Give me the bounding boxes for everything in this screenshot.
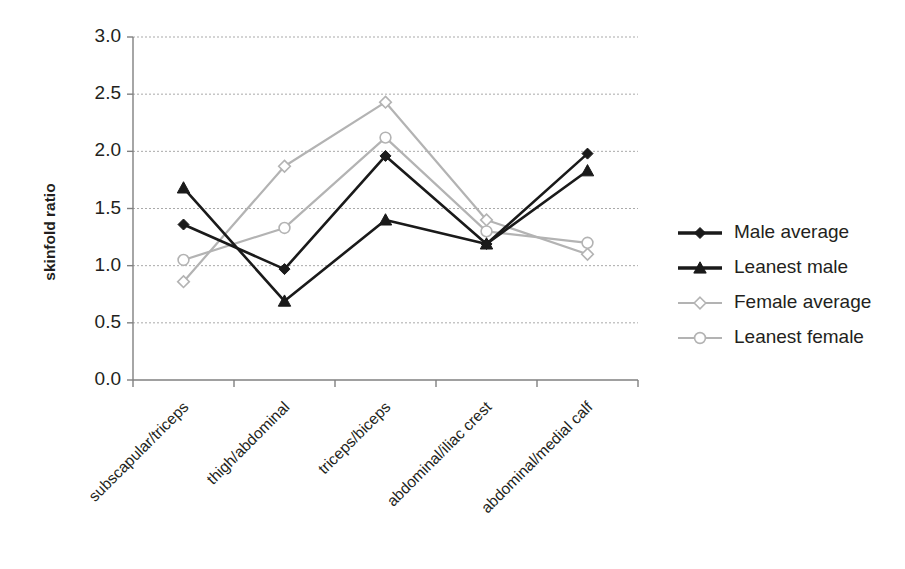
y-tick-label: 1.0 [95,254,121,275]
legend-item[interactable]: Leanest male [678,256,848,277]
y-tick-labels: 0.00.51.01.52.02.53.0 [95,25,121,389]
data-point-marker [279,223,290,234]
data-point-marker [178,219,189,230]
y-tick-label: 0.0 [95,368,121,389]
chart-figure: 0.00.51.01.52.02.53.0 subscapular/tricep… [0,0,905,569]
x-tick-marks [133,380,638,387]
legend-label: Female average [734,291,871,312]
legend-label: Leanest female [734,326,864,347]
legend-item[interactable]: Male average [678,221,849,242]
x-category-label: abdominal/medial calf [478,398,597,517]
gridlines [133,37,638,323]
x-category-label: subscapular/triceps [85,398,192,505]
data-point-marker [380,132,391,143]
x-axis [133,380,638,387]
x-category-label: abdominal/iliac crest [383,398,495,510]
y-tick-label: 2.5 [95,82,121,103]
data-point-marker [581,165,593,176]
x-category-label: thigh/abdominal [203,398,292,487]
chart-legend: Male averageLeanest maleFemale averageLe… [678,221,871,347]
y-tick-label: 2.0 [95,139,121,160]
data-series [177,96,593,306]
y-tick-label: 1.5 [95,197,121,218]
legend-label: Male average [734,221,849,242]
data-point-marker [178,255,189,266]
y-tick-label: 0.5 [95,311,121,332]
data-point-marker [379,214,391,225]
legend-item[interactable]: Leanest female [678,326,864,347]
data-point-marker [695,333,706,344]
data-point-marker [695,228,706,239]
y-tick-marks [127,37,133,380]
legend-item[interactable]: Female average [678,291,871,312]
data-point-marker [582,248,594,260]
data-point-marker [481,226,492,237]
series-female-average [178,96,594,287]
data-point-marker [694,297,706,309]
x-category-label: triceps/biceps [315,398,394,477]
data-point-marker [582,237,593,248]
y-axis [127,37,133,380]
chart-svg: 0.00.51.01.52.02.53.0 subscapular/tricep… [0,0,905,569]
y-tick-label: 3.0 [95,25,121,46]
data-point-marker [177,182,189,193]
y-axis-title: skinfold ratio [41,183,58,280]
legend-label: Leanest male [734,256,848,277]
x-category-labels: subscapular/tricepsthigh/abdominaltricep… [85,398,596,517]
